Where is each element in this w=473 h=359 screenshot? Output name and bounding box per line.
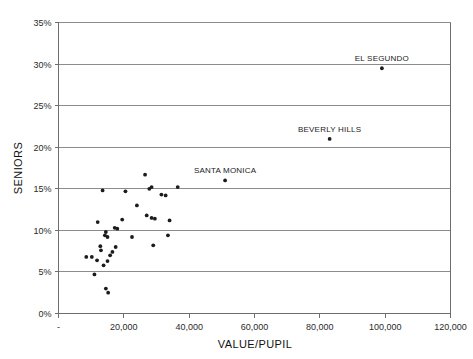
y-tick-label: 0% [38, 309, 51, 319]
data-point [106, 235, 110, 239]
y-tick-label: 35% [33, 18, 51, 28]
data-point [96, 220, 100, 224]
data-point [124, 189, 128, 193]
data-point [153, 217, 157, 221]
x-tick-label: 120,000 [434, 322, 467, 332]
data-point [106, 291, 110, 295]
data-point [115, 227, 119, 231]
x-tick-label: - [57, 322, 60, 332]
x-tick-label: 60,000 [241, 322, 269, 332]
point-label: SANTA MONICA [194, 166, 257, 175]
data-point [99, 248, 103, 252]
data-point [95, 258, 99, 262]
x-tick-label: 80,000 [306, 322, 334, 332]
data-point [93, 273, 97, 277]
data-point [160, 193, 164, 197]
y-tick-label: 5% [38, 267, 51, 277]
data-point [143, 173, 147, 177]
data-point [102, 263, 106, 267]
x-axis-title: VALUE/PUPIL [218, 338, 293, 350]
data-point [104, 287, 108, 291]
y-tick-label: 10% [33, 226, 51, 236]
y-tick-label: 25% [33, 101, 51, 111]
data-point [84, 255, 88, 259]
data-point [108, 253, 112, 257]
x-tick-label: 20,000 [110, 322, 138, 332]
y-axis-title: SENIORS [12, 142, 24, 194]
y-tick-label: 30% [33, 60, 51, 70]
data-point [164, 194, 168, 198]
data-point [104, 230, 108, 234]
data-point [135, 204, 139, 208]
data-point [130, 235, 134, 239]
data-point [101, 189, 105, 193]
scatter-chart: -20,00040,00060,00080,000100,000120,000 … [0, 0, 473, 359]
data-point [98, 244, 102, 248]
data-point [328, 137, 332, 141]
data-point [120, 218, 124, 222]
data-point [150, 216, 154, 220]
data-point [145, 213, 149, 217]
data-point [147, 187, 151, 191]
data-point [106, 259, 110, 263]
data-point [151, 243, 155, 247]
point-label: EL SEGUNDO [355, 54, 409, 63]
point-label: BEVERLY HILLS [298, 125, 361, 134]
chart-canvas: -20,00040,00060,00080,000100,000120,000 … [0, 0, 473, 359]
data-point [223, 179, 227, 183]
data-point [176, 185, 180, 189]
data-point [111, 250, 115, 254]
data-point [90, 255, 94, 259]
y-tick-label: 15% [33, 184, 51, 194]
data-point [380, 66, 384, 70]
y-tick-label: 20% [33, 143, 51, 153]
data-point [166, 233, 170, 237]
data-point [114, 245, 118, 249]
x-tick-label: 40,000 [175, 322, 203, 332]
x-tick-label: 100,000 [369, 322, 402, 332]
data-point [168, 218, 172, 222]
